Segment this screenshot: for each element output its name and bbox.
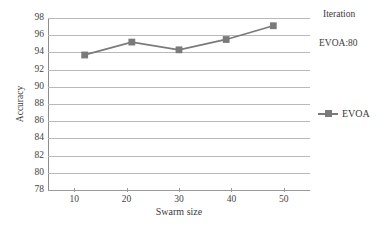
x-axis-tick-label: 30 bbox=[174, 195, 184, 205]
y-axis-title: Accuracy bbox=[15, 86, 25, 122]
evoa-value-annotation: EVOA:80 bbox=[319, 38, 358, 48]
y-axis-tick-label: 94 bbox=[35, 48, 45, 58]
x-axis-tick-label: 50 bbox=[279, 195, 289, 205]
x-axis-title: Swarm size bbox=[48, 206, 310, 217]
x-axis-tick-mark bbox=[179, 188, 180, 192]
plot-area bbox=[48, 18, 310, 190]
iteration-annotation: Iteration bbox=[323, 9, 355, 19]
y-axis-tick-label: 96 bbox=[35, 30, 45, 40]
legend-panel: Iteration EVOA:80 EVOA bbox=[318, 0, 388, 234]
accuracy-vs-swarm-size-chart: 7880828486889092949698 1020304050 Swarm … bbox=[0, 0, 388, 234]
legend-marker-icon bbox=[318, 109, 338, 118]
y-axis-tick-label: 98 bbox=[35, 13, 45, 23]
y-axis-tick-label: 82 bbox=[35, 151, 45, 161]
series-layer bbox=[48, 18, 310, 190]
x-axis-tick-mark bbox=[127, 188, 128, 192]
data-point-marker bbox=[81, 52, 88, 59]
y-axis-tick-label: 86 bbox=[35, 116, 45, 126]
data-point-marker bbox=[128, 39, 135, 46]
legend-item-evoa: EVOA bbox=[318, 108, 370, 119]
data-point-marker bbox=[223, 36, 230, 43]
data-point-marker bbox=[176, 46, 183, 53]
x-axis-tick-labels: 1020304050 bbox=[48, 192, 310, 206]
x-axis-tick-label: 40 bbox=[227, 195, 237, 205]
x-axis-tick-mark bbox=[284, 188, 285, 192]
y-axis-tick-label: 88 bbox=[35, 99, 45, 109]
legend-item-label: EVOA bbox=[342, 108, 370, 119]
x-axis-tick-label: 10 bbox=[69, 195, 79, 205]
y-axis-tick-label: 90 bbox=[35, 82, 45, 92]
y-axis-tick-label: 80 bbox=[35, 168, 45, 178]
x-axis-tick-mark bbox=[231, 188, 232, 192]
y-axis-tick-label: 92 bbox=[35, 65, 45, 75]
data-point-marker bbox=[270, 22, 277, 29]
y-axis-tick-label: 84 bbox=[35, 134, 45, 144]
x-axis-tick-label: 20 bbox=[122, 195, 132, 205]
y-axis-tick-label: 78 bbox=[35, 185, 45, 195]
x-axis-tick-mark bbox=[74, 188, 75, 192]
